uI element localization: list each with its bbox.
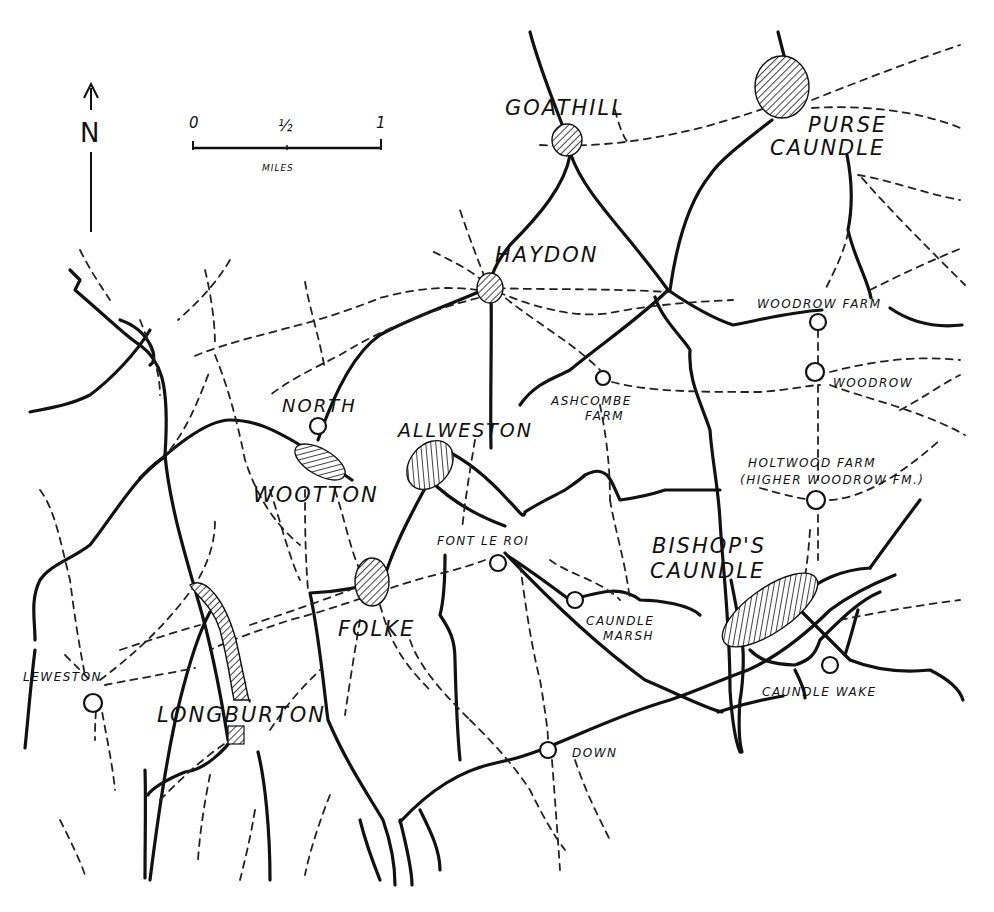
labels: GOATHILL PURSE CAUNDLE HAYDON NORTH WOOT… (23, 96, 925, 760)
label-ashcombe-farm: FARM (585, 409, 624, 423)
label-allweston: ALLWESTON (396, 419, 533, 441)
label-caundle: CAUNDLE (586, 614, 654, 628)
folke-settlement (355, 558, 389, 606)
scale-tick-0: 0 (189, 114, 201, 132)
label-down: DOWN (572, 746, 618, 760)
scale-unit: MILES (262, 163, 294, 173)
allweston-settlement (397, 431, 462, 498)
label-bishops-caundle: CAUNDLE (650, 559, 765, 583)
leweston-marker (84, 694, 102, 712)
holtwood-farm-marker (807, 491, 825, 509)
label-woodrow: WOODROW (833, 376, 913, 390)
label-folke: FOLKE (338, 617, 415, 641)
label-ashcombe: ASHCOMBE (550, 394, 632, 408)
font-le-roi-marker (490, 555, 506, 571)
north-arrow: N (80, 84, 99, 232)
purse-caundle-settlement (755, 56, 809, 118)
label-purse-caundle-2: CAUNDLE (770, 136, 885, 160)
label-wootton: WOOTTON (253, 483, 379, 507)
label-north: NORTH (282, 395, 357, 416)
label-purse-caundle-1: PURSE (808, 113, 887, 137)
label-caundle-marsh: MARSH (603, 629, 654, 643)
down-marker (540, 742, 556, 758)
haydon-settlement (477, 273, 503, 303)
scale-bar: 0 ½ 1 MILES (189, 114, 388, 173)
scale-tick-1: 1 (376, 114, 388, 132)
scale-tick-half: ½ (278, 117, 295, 135)
label-holtwood-farm: HOLTWOOD FARM (748, 456, 876, 470)
longburton-south-settlement (228, 726, 244, 744)
label-caundle-wake: CAUNDLE WAKE (762, 685, 877, 699)
goathill-settlement (552, 124, 582, 156)
label-woodrow-farm: WOODROW FARM (757, 297, 882, 311)
label-goathill: GOATHILL (505, 96, 625, 120)
woodrow-farm-marker (810, 314, 826, 330)
label-leweston: LEWESTON (23, 670, 102, 684)
label-longburton: LONGBURTON (157, 703, 326, 727)
north-wootton-marker (310, 418, 326, 434)
sketch-map: N 0 ½ 1 MILES (0, 0, 994, 912)
label-higher-woodrow: (HIGHER WOODROW FM.) (740, 473, 925, 487)
woodrow-marker (806, 363, 824, 381)
caundle-marsh-marker (567, 592, 583, 608)
ashcombe-farm-marker (596, 371, 610, 385)
caundle-wake-marker (822, 657, 838, 673)
label-haydon: HAYDON (495, 243, 598, 267)
label-bishops: BISHOP'S (652, 534, 766, 558)
north-arrow-label: N (80, 118, 99, 148)
label-font-le-roi: FONT LE ROI (437, 534, 529, 548)
